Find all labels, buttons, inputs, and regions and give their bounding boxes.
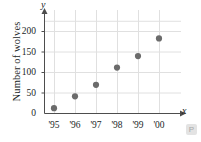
- x-axis-tick-labels: '95 '96 '97 '98 '99 '00: [0, 0, 201, 142]
- y-axis-letter: y: [41, 0, 45, 10]
- watermark-badge: P: [186, 124, 197, 135]
- scatter-plot-figure: Number of wolves 0 50 100 150 200 '95 '9…: [0, 0, 201, 142]
- x-tick-label: '00: [146, 121, 172, 131]
- x-axis-letter: x: [182, 105, 186, 116]
